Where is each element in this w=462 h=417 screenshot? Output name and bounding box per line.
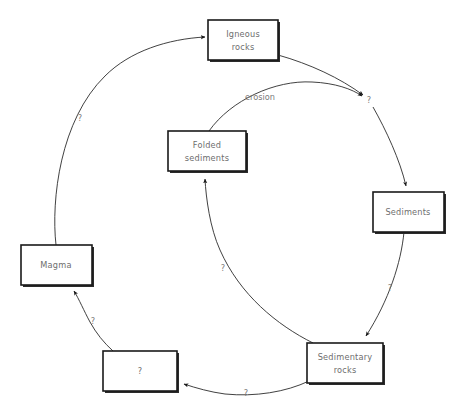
node-folded-sediments-box[interactable] — [168, 131, 246, 171]
node-folded-sediments[interactable]: Folded sediments — [168, 131, 248, 173]
node-igneous-rocks-box[interactable] — [208, 20, 278, 60]
node-sediments[interactable]: Sediments — [373, 192, 446, 234]
edge-sediments-to-sedimentary: ? — [366, 232, 404, 336]
node-sedimentary-rocks[interactable]: Sedimentary rocks — [307, 343, 385, 385]
node-folded-sediments-label-line1: Folded — [193, 140, 221, 150]
edge-unknown-to-magma: ? — [74, 291, 113, 351]
edge-igneous-to-weathering: ? — [278, 55, 371, 105]
edge-weathering-to-sediments — [373, 107, 406, 186]
rock-cycle-diagram: ? ? erosion ? ? ? — [0, 0, 462, 417]
node-sedimentary-rocks-box[interactable] — [307, 343, 383, 383]
node-sediments-label: Sediments — [385, 207, 430, 217]
node-unknown-label: ? — [138, 366, 143, 376]
edge-label-unknown-to-magma: ? — [91, 316, 95, 326]
edge-path-folded-to-weathering — [209, 82, 362, 131]
node-sedimentary-rocks-label-line2: rocks — [334, 365, 357, 375]
edge-label-sedimentary-to-unknown: ? — [244, 388, 248, 398]
node-unknown[interactable]: ? — [103, 351, 179, 393]
node-sedimentary-rocks-label-line1: Sedimentary — [318, 352, 373, 362]
node-magma[interactable]: Magma — [21, 245, 94, 287]
rock-cycle-canvas: ? ? erosion ? ? ? — [0, 0, 462, 417]
edge-path-sediments-to-sedimentary — [366, 232, 404, 336]
edge-label-igneous-to-weathering: ? — [367, 95, 371, 105]
edge-label-sediments-to-sedimentary: ? — [388, 283, 392, 293]
node-folded-sediments-label-line2: sediments — [185, 153, 229, 163]
edge-sedimentary-to-folded: ? — [205, 179, 313, 343]
edge-path-sedimentary-to-folded — [205, 179, 313, 343]
edge-label-sedimentary-to-folded: ? — [221, 263, 225, 273]
edge-folded-to-weathering: erosion — [209, 82, 362, 131]
node-igneous-rocks[interactable]: Igneous rocks — [208, 20, 280, 62]
node-magma-label: Magma — [40, 260, 71, 270]
node-igneous-rocks-label-line2: rocks — [232, 42, 255, 52]
node-igneous-rocks-label-line1: Igneous — [226, 29, 260, 39]
edge-sedimentary-to-unknown: ? — [184, 381, 309, 398]
edge-path-igneous-to-weathering — [278, 55, 363, 95]
edge-label-erosion: erosion — [245, 92, 275, 102]
edge-path-weathering-to-sediments — [373, 107, 406, 186]
edge-label-magma-to-igneous: ? — [78, 113, 82, 123]
